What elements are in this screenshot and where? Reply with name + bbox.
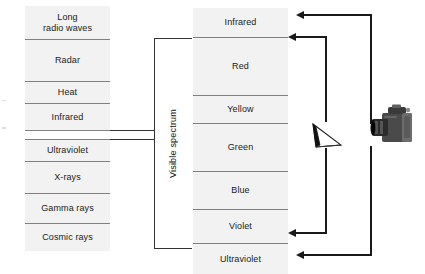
visible-band-label: Ultraviolet: [220, 254, 261, 264]
visible-band-infrared: Infrared: [193, 8, 288, 37]
visible-band-green: Green: [193, 123, 288, 171]
visible-band-label: Infrared: [225, 17, 257, 27]
em-band-xrays: X-rays: [25, 161, 110, 193]
ray-inner-lower-horizontal: [294, 232, 327, 234]
prism-icon: [310, 118, 344, 152]
ray-outer-lower-arrowhead: [296, 251, 304, 259]
ray-outer-lower-horizontal: [302, 254, 372, 256]
visible-band-label: Blue: [231, 185, 249, 195]
em-band-visible-slot: [25, 130, 110, 139]
visible-spectrum-label-text: Visible spectrum: [168, 109, 178, 178]
connector-upper: [110, 130, 155, 131]
visible-band-ultraviolet: Ultraviolet: [193, 243, 288, 274]
connector-lower: [110, 139, 155, 140]
visible-band-blue: Blue: [193, 171, 288, 209]
visible-band-label: Green: [228, 142, 254, 152]
em-band-radar: Radar: [25, 39, 110, 81]
em-spectrum-column: Long radio waves Radar Heat Infrared Ult…: [25, 6, 110, 251]
em-band-infrared: Infrared: [25, 103, 110, 130]
em-band-ultraviolet: Ultraviolet: [25, 139, 110, 161]
em-band-label: Heat: [58, 87, 77, 97]
visible-spectrum-label: Visible spectrum: [160, 38, 186, 249]
em-band-long-radio-waves: Long radio waves: [25, 6, 110, 39]
ray-outer-upper-arrowhead: [296, 11, 304, 19]
visible-band-label: Yellow: [227, 104, 253, 114]
scan-artifact: [2, 127, 6, 129]
visible-band-yellow: Yellow: [193, 95, 288, 123]
ray-inner-upper-horizontal: [294, 36, 327, 38]
ray-outer-lower-vertical: [370, 146, 372, 256]
em-band-heat: Heat: [25, 81, 110, 103]
em-band-label: Ultraviolet: [47, 145, 88, 155]
ray-inner-upper-vertical: [325, 36, 327, 122]
em-band-label: Radar: [55, 55, 80, 65]
visible-band-label: Red: [232, 61, 249, 71]
visible-band-label: Violet: [229, 221, 252, 231]
em-band-label: Long radio waves: [43, 12, 92, 32]
ray-outer-upper-horizontal: [302, 14, 372, 16]
em-band-label: Gamma rays: [41, 203, 94, 213]
camera-icon: [368, 104, 418, 152]
diagram-canvas: Long radio waves Radar Heat Infrared Ult…: [0, 0, 425, 274]
ray-inner-lower-arrowhead: [288, 229, 296, 237]
em-band-gamma-rays: Gamma rays: [25, 193, 110, 223]
ray-inner-lower-vertical: [325, 148, 327, 234]
visible-band-red: Red: [193, 37, 288, 95]
scan-artifact: [2, 100, 6, 101]
visible-spectrum-column: Infrared Red Yellow Green Blue Violet Ul…: [193, 8, 288, 254]
em-band-cosmic-rays: Cosmic rays: [25, 223, 110, 251]
em-band-label: X-rays: [54, 172, 81, 182]
visible-band-violet: Violet: [193, 209, 288, 243]
em-band-label: Infrared: [52, 112, 84, 122]
em-band-label: Cosmic rays: [42, 232, 93, 242]
ray-inner-upper-arrowhead: [288, 33, 296, 41]
